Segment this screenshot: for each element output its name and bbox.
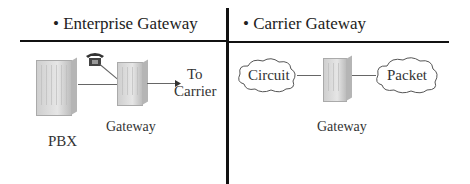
enterprise-gateway-label: Gateway: [106, 119, 156, 135]
to-carrier-label-line1: To: [187, 66, 203, 83]
carrier-gateway-cabinet-icon: [323, 58, 347, 102]
enterprise-gateway-cabinet-icon: [117, 62, 143, 106]
pbx-cabinet-icon: [36, 60, 72, 116]
enterprise-gateway-title: • Enterprise Gateway: [53, 14, 198, 34]
left-title-underline: [20, 40, 226, 42]
to-carrier-arrow-line: [147, 83, 177, 84]
carrier-gateway-title: • Carrier Gateway: [243, 14, 366, 34]
vertical-divider: [226, 8, 229, 184]
circuit-to-gateway-line: [297, 75, 321, 76]
pbx-label: PBX: [48, 133, 77, 150]
carrier-gateway-label: Gateway: [317, 119, 367, 135]
right-title-underline: [229, 41, 449, 43]
telephone-icon: [84, 51, 106, 67]
packet-label: Packet: [387, 67, 427, 84]
phone-cord: [100, 64, 119, 80]
pbx-to-gateway-line: [78, 84, 118, 85]
circuit-label: Circuit: [248, 67, 290, 84]
to-carrier-label-line2: Carrier: [174, 83, 216, 100]
gateway-to-packet-line: [352, 75, 376, 76]
